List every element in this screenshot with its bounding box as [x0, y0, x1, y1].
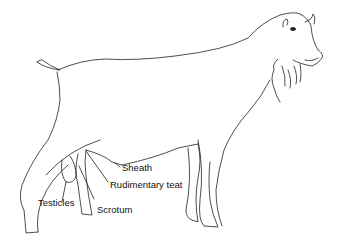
mouth — [305, 58, 318, 61]
leader-scrotum — [79, 166, 94, 199]
label-rudimentary-teat: Rudimentary teat — [110, 180, 182, 190]
hind-leg-rear — [20, 72, 60, 233]
neck-front — [216, 80, 270, 226]
beard — [272, 59, 301, 102]
back-line — [58, 13, 300, 70]
label-sheath: Sheath — [122, 163, 152, 173]
label-scrotum: Scrotum — [97, 205, 132, 215]
eye — [291, 27, 296, 30]
ear — [283, 19, 288, 27]
tail — [37, 60, 60, 70]
sheath — [86, 150, 122, 165]
label-testicles: Testicles — [38, 198, 74, 208]
scrotum — [76, 150, 92, 215]
goat-drawing — [0, 0, 341, 247]
front-leg-2 — [198, 140, 218, 227]
front-leg-1 — [186, 144, 200, 222]
belly — [46, 140, 100, 175]
leader-rudimentary-teat — [86, 151, 108, 182]
